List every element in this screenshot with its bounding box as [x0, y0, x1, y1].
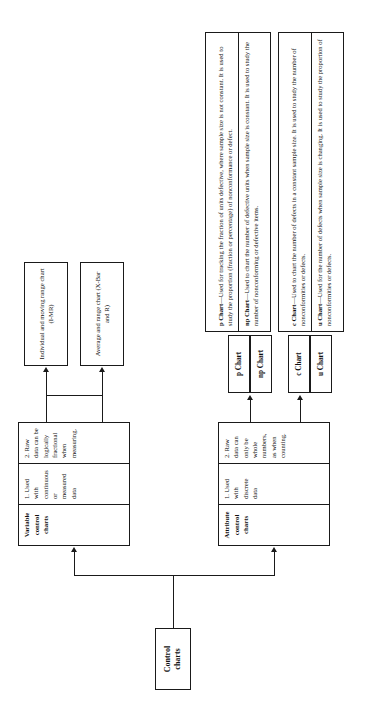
node-control-charts-label: Control charts [163, 646, 184, 673]
connector-root-spine [74, 575, 274, 576]
attribute-bullet-2: 2. Raw data can only be whole numbers, a… [219, 423, 329, 464]
connector-variable-to-xbar [102, 372, 103, 396]
connector-variable-out-1 [46, 396, 47, 422]
node-control-charts[interactable]: Control charts [155, 628, 191, 690]
description-np-chart-lead: np Chart [243, 300, 250, 326]
description-c-chart-text: —Used to chart the number of defects in … [290, 48, 306, 326]
arrowhead-imr [43, 367, 49, 372]
chip-u-chart[interactable]: u Chart [310, 335, 332, 393]
rotated-diagram-wrapper: Control charts Variable control charts 1… [0, 0, 371, 712]
connector-arm-variable [74, 552, 75, 576]
chip-p-chart-label: p Chart [235, 352, 243, 376]
connector-root-stem [173, 576, 174, 628]
connector-attribute-out-2 [300, 400, 301, 422]
chip-u-chart-label: u Chart [317, 352, 325, 376]
description-u-chart-lead: u Chart [316, 304, 323, 326]
description-np-chart-text: —Used to chart the number of defective u… [243, 42, 259, 326]
arrowhead-p-np-group [247, 395, 253, 400]
arrowhead-xbar [99, 367, 105, 372]
attribute-header: Attribute control charts [219, 505, 329, 545]
connector-variable-to-imr [46, 372, 47, 396]
connector-variable-out-2 [102, 396, 103, 422]
description-c-chart: c Chart—Used to chart the number of defe… [286, 33, 311, 331]
node-chart-average-range[interactable]: Average and range chart (X-Bar and R) [80, 262, 124, 366]
node-chart-individual-moving-range[interactable]: Individual and moving range chart (I-MR) [24, 262, 68, 366]
diagram-canvas: Control charts Variable control charts 1… [0, 0, 371, 712]
description-u-chart: u Chart—Used for the number of defects w… [311, 33, 337, 331]
variable-bullet-1: 1. Used with continuous or measured data [19, 464, 129, 505]
chart-imr-label: Individual and moving range chart (I-MR) [34, 263, 59, 365]
chip-np-chart-label: np Chart [257, 350, 265, 378]
connector-arm-attribute [274, 552, 275, 576]
chip-c-chart-label: c Chart [295, 352, 303, 375]
group-p-np-descriptions: p Chart—Used for tracking the fraction o… [205, 32, 271, 332]
description-u-chart-text: —Used for the number of defects when sam… [316, 39, 332, 326]
description-p-chart-lead: p Chart [217, 304, 224, 326]
attribute-bullet-1: 1. Used with discrete data [219, 464, 329, 505]
chip-np-chart[interactable]: np Chart [250, 335, 272, 393]
description-c-chart-lead: c Chart [290, 305, 297, 326]
arrowhead-variable [71, 547, 77, 552]
node-variable-control-charts[interactable]: Variable control charts 1. Used with con… [18, 422, 130, 546]
description-p-chart-text: —Used for tracking the fraction of units… [217, 47, 233, 326]
connector-variable-split [46, 395, 102, 396]
description-p-chart: p Chart—Used for tracking the fraction o… [213, 33, 238, 331]
chip-c-chart[interactable]: c Chart [288, 335, 310, 393]
arrowhead-attribute [271, 547, 277, 552]
chart-xbar-label: Average and range chart (X-Bar and R) [90, 263, 115, 365]
node-attribute-control-charts[interactable]: Attribute control charts 1. Used with di… [218, 422, 330, 546]
description-np-chart: np Chart—Used to chart the number of def… [238, 33, 264, 331]
group-c-u-descriptions: c Chart—Used to chart the number of defe… [278, 32, 344, 332]
arrowhead-c-u-group [297, 395, 303, 400]
variable-header: Variable control charts [19, 505, 129, 545]
connector-attribute-out-1 [250, 400, 251, 422]
chip-p-chart[interactable]: p Chart [228, 335, 250, 393]
variable-bullet-2: 2. Raw data can be logically fractional … [19, 423, 129, 464]
